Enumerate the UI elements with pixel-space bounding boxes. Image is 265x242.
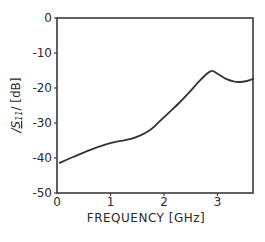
y-tick-label: 0 — [44, 11, 52, 25]
y-axis-label: /S11/ [dB] — [9, 78, 24, 134]
x-tick-label: 3 — [214, 195, 222, 209]
y-tick-label: -30 — [32, 116, 52, 130]
x-tick-label: 1 — [107, 195, 115, 209]
plot-frame — [57, 18, 253, 193]
y-tick-label: -20 — [32, 81, 52, 95]
s11-chart: 0-10-20-30-40-50 0123 FREQUENCY [GHz] /S… — [0, 0, 265, 242]
y-axis-ticks: 0-10-20-30-40-50 — [32, 11, 57, 200]
y-tick-label: -10 — [32, 46, 52, 60]
y-tick-label: -40 — [32, 151, 52, 165]
x-axis-label: FREQUENCY [GHz] — [87, 211, 205, 225]
x-axis-ticks: 0123 — [53, 193, 221, 209]
svg-text:/S11/ [dB]: /S11/ [dB] — [9, 78, 24, 134]
x-tick-label: 2 — [160, 195, 168, 209]
y-tick-label: -50 — [32, 186, 52, 200]
x-tick-label: 0 — [53, 195, 61, 209]
s11-curve — [60, 71, 254, 163]
